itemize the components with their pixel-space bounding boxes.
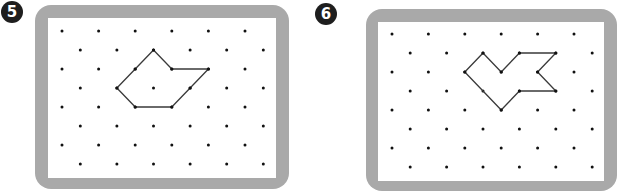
shape-vertex <box>554 89 557 92</box>
grid-dot <box>97 106 100 109</box>
grid-dot <box>115 49 118 52</box>
grid-dot <box>97 68 100 71</box>
grid-dot <box>152 87 155 90</box>
grid-dot <box>97 144 100 147</box>
grid-dot <box>97 30 100 33</box>
grid-dot <box>518 166 521 169</box>
grid-dot <box>409 128 412 131</box>
shape-vertex <box>134 67 137 70</box>
grid-dot <box>79 49 82 52</box>
grid-dot <box>189 49 192 52</box>
grid-dot <box>445 52 448 55</box>
grid-dot <box>115 125 118 128</box>
grid-dot <box>427 71 430 74</box>
exercise-panel-5: 5 <box>1 1 289 189</box>
shape-vertex <box>170 105 173 108</box>
grid-dot <box>391 147 394 150</box>
shape-vertex <box>207 67 210 70</box>
grid-dot <box>152 125 155 128</box>
grid-dot <box>262 87 265 90</box>
grid-dot <box>61 106 64 109</box>
exercise-number: 6 <box>321 5 331 23</box>
grid-dot <box>445 90 448 93</box>
grid-dot <box>207 30 210 33</box>
grid-dot <box>536 109 539 112</box>
grid-dot <box>391 71 394 74</box>
grid-dot <box>409 166 412 169</box>
grid-dot <box>225 49 228 52</box>
shape-vertex <box>500 108 503 111</box>
grid-dot <box>391 33 394 36</box>
shape-vertex <box>134 105 137 108</box>
grid-dot <box>244 30 247 33</box>
grid-dot <box>170 30 173 33</box>
grid-dot <box>61 30 64 33</box>
shape-vertex <box>463 70 466 73</box>
grid-dot <box>518 128 521 131</box>
grid-dot <box>189 163 192 166</box>
grid-dot <box>554 128 557 131</box>
grid-dot <box>463 33 466 36</box>
grid-dot <box>244 68 247 71</box>
shape-vertex <box>518 51 521 54</box>
grid-dot <box>115 163 118 166</box>
shape-vertex <box>518 89 521 92</box>
grid-dot <box>445 166 448 169</box>
grid-dot <box>244 106 247 109</box>
grid-dot <box>591 52 594 55</box>
shape-vertex <box>115 86 118 89</box>
grid-dot <box>482 128 485 131</box>
grid-dot <box>61 144 64 147</box>
grid-dot <box>500 33 503 36</box>
exercise-panel-6: 6 <box>315 3 617 191</box>
grid-dot <box>244 144 247 147</box>
shape-vertex <box>500 70 503 73</box>
grid-dot <box>391 109 394 112</box>
grid-dot <box>152 163 155 166</box>
isometric-dot-grid-exercises: 5 6 <box>0 0 622 191</box>
grid-dot <box>134 144 137 147</box>
grid-dot <box>445 128 448 131</box>
grid-dot <box>262 49 265 52</box>
shape-vertex <box>170 67 173 70</box>
grid-dot <box>409 90 412 93</box>
grid-dot <box>207 144 210 147</box>
exercise-number: 5 <box>7 3 17 21</box>
grid-dot <box>591 166 594 169</box>
shape-vertex <box>481 51 484 54</box>
shape-vertex <box>152 48 155 51</box>
grid-dot <box>573 33 576 36</box>
grid-dot <box>573 109 576 112</box>
grid-dot <box>225 163 228 166</box>
grid-dot <box>134 30 137 33</box>
grid-dot <box>79 163 82 166</box>
grid-dot <box>225 125 228 128</box>
grid-dot <box>500 147 503 150</box>
grid-dot <box>189 125 192 128</box>
grid-dot <box>79 125 82 128</box>
grid-dot <box>591 90 594 93</box>
grid-paper <box>48 18 276 178</box>
grid-dot <box>225 87 228 90</box>
shape-vertex <box>189 86 192 89</box>
grid-dot <box>536 33 539 36</box>
grid-dot <box>482 166 485 169</box>
grid-dot <box>573 147 576 150</box>
grid-dot <box>463 109 466 112</box>
grid-dot <box>170 144 173 147</box>
grid-dot <box>262 163 265 166</box>
grid-dot <box>463 147 466 150</box>
grid-dot <box>207 106 210 109</box>
grid-dot <box>554 166 557 169</box>
grid-dot <box>573 71 576 74</box>
grid-dot <box>409 52 412 55</box>
grid-dot <box>427 33 430 36</box>
grid-dot <box>79 87 82 90</box>
grid-dot <box>61 68 64 71</box>
grid-dot <box>262 125 265 128</box>
shape-vertex <box>536 70 539 73</box>
grid-dot <box>536 147 539 150</box>
grid-dot <box>427 109 430 112</box>
grid-paper <box>378 22 604 181</box>
shape-vertex <box>554 51 557 54</box>
